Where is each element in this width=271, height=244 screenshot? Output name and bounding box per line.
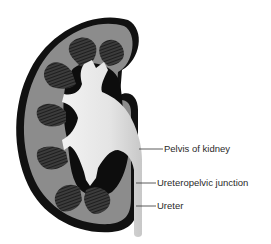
label-pelvis: Pelvis of kidney bbox=[164, 143, 230, 154]
label-ureter: Ureter bbox=[157, 200, 183, 211]
label-ureteropelvic-junction: Ureteropelvic junction bbox=[157, 177, 248, 188]
kidney-diagram: Pelvis of kidney Ureteropelvic junction … bbox=[0, 0, 271, 244]
